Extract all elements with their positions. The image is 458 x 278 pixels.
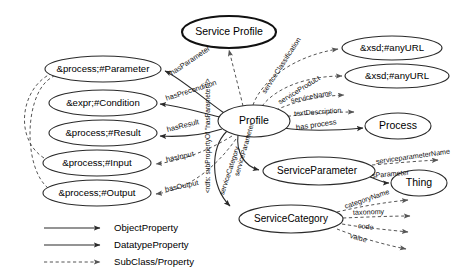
edge-label-has-result: hasResult bbox=[166, 117, 200, 134]
service-profile-label: Service Profile bbox=[195, 25, 263, 37]
process-input-label: &process;#Input bbox=[62, 157, 132, 168]
edge-value bbox=[337, 229, 406, 249]
service-category-label: ServiceCategory bbox=[254, 213, 328, 224]
process-output-label: &process;#Output bbox=[59, 187, 136, 198]
edge-has-process bbox=[283, 128, 363, 130]
legend: ObjectProperty DatatypeProperty SubClass… bbox=[44, 222, 194, 267]
process-parameter-label: &process;#Parameter bbox=[57, 63, 151, 74]
ontology-diagram: Service Profile (dashed, curving up) -->… bbox=[0, 0, 458, 278]
xsd-anyurl-2-label: &xsd;#anyURL bbox=[365, 70, 430, 81]
node-profile[interactable]: Profile bbox=[218, 105, 290, 137]
legend-item-datatype-property: DatatypeProperty bbox=[44, 239, 189, 250]
service-parameter-label: ServiceParameter bbox=[277, 165, 358, 176]
node-expr-condition[interactable]: &expr;#Condition bbox=[49, 90, 157, 116]
edge-label-service-parameter-name: serviceparameterName bbox=[375, 147, 450, 166]
legend-label-subclass-property: SubClass/Property bbox=[114, 256, 194, 267]
legend-label-object-property: ObjectProperty bbox=[114, 222, 178, 233]
node-xsd-anyurl-2[interactable]: &xsd;#anyURL bbox=[345, 64, 449, 88]
process-result-label: &process;#Result bbox=[65, 127, 141, 138]
legend-item-subclass-property: SubClass/Property bbox=[44, 256, 194, 267]
edge-label-code: code bbox=[358, 221, 375, 232]
node-service-profile[interactable]: Service Profile bbox=[182, 16, 276, 48]
node-service-category[interactable]: ServiceCategory bbox=[239, 205, 343, 233]
node-process-result[interactable]: &process;#Result bbox=[49, 120, 157, 146]
thing-label: Thing bbox=[406, 176, 432, 188]
edge-label-rdfs-subpropertyof: <rdfs: subPropertyOf "hasParameter"/> bbox=[204, 78, 212, 193]
edge-profile-subclassof-service-profile bbox=[229, 50, 243, 106]
edge-label-has-input: hasInput bbox=[165, 149, 195, 164]
legend-label-datatype-property: DatatypeProperty bbox=[114, 239, 189, 250]
xsd-anyurl-1-label: &xsd;#anyURL bbox=[360, 42, 425, 53]
legend-item-object-property: ObjectProperty bbox=[44, 222, 178, 233]
edge-label-has-parameter: hasParameter bbox=[168, 44, 212, 78]
node-xsd-anyurl-1[interactable]: &xsd;#anyURL bbox=[342, 36, 442, 60]
expr-condition-label: &expr;#Condition bbox=[66, 97, 140, 108]
node-service-parameter[interactable]: ServiceParameter bbox=[263, 157, 375, 185]
edge-label-text-description: textDescription bbox=[294, 106, 342, 118]
process-label: Process bbox=[379, 119, 417, 131]
node-process-output[interactable]: &process;#Output bbox=[43, 180, 151, 206]
node-process-parameter[interactable]: &process;#Parameter bbox=[45, 56, 161, 82]
edge-has-precondition bbox=[160, 104, 220, 117]
node-process-input[interactable]: &process;#Input bbox=[43, 150, 151, 176]
edge-label-taxonomy: taxonomy bbox=[353, 207, 385, 217]
edge-label-has-output: hasOutput bbox=[164, 178, 199, 194]
node-process[interactable]: Process bbox=[365, 113, 431, 139]
edge-label-value: value bbox=[349, 231, 368, 244]
